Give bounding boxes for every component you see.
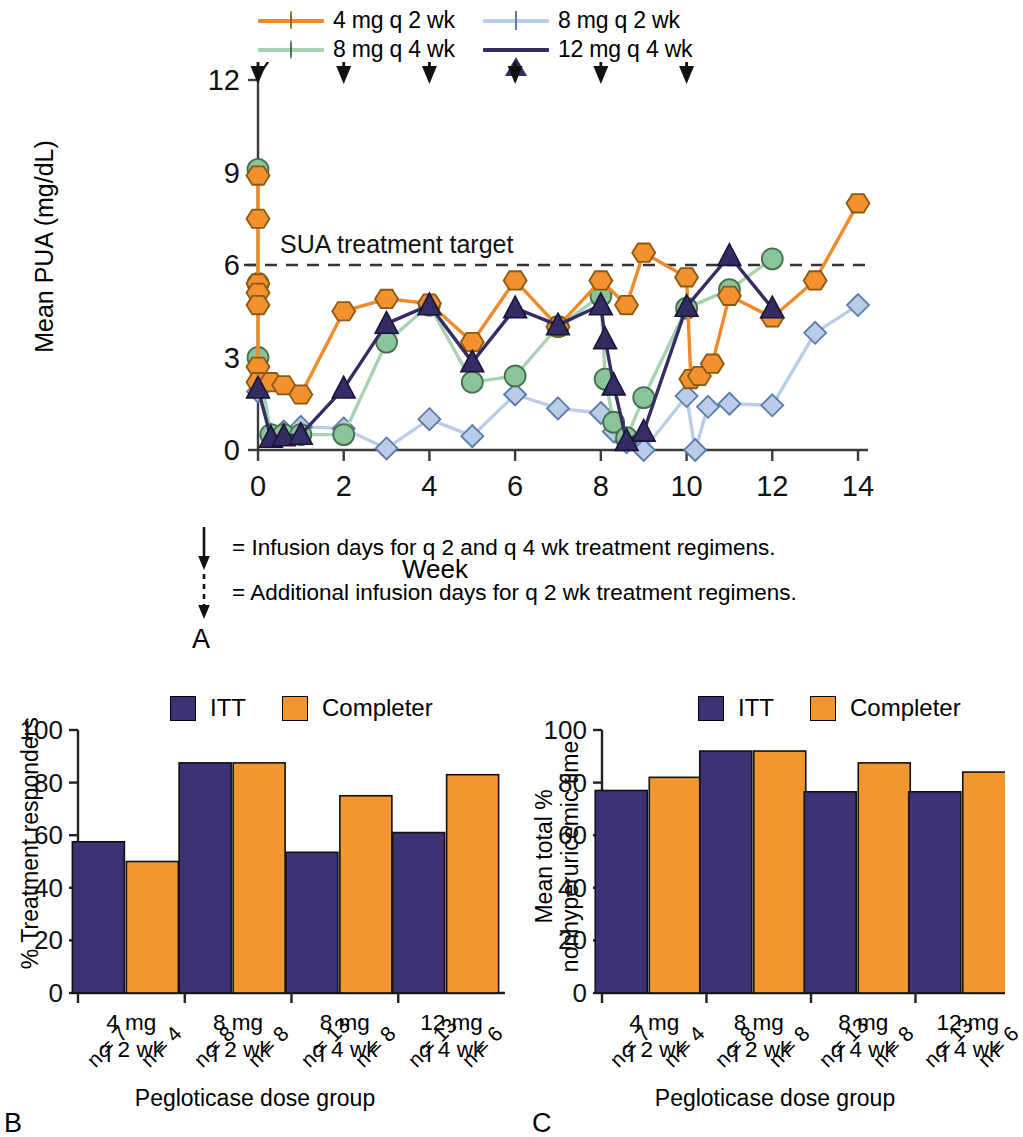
group-label-line2: q 2 wk [707,1037,812,1064]
bar-itt [393,833,445,993]
bar-y-tick: 40 [34,873,63,903]
sua-target-annotation: SUA treatment target [280,230,514,258]
group-label-line2: q 2 wk [602,1037,707,1064]
legend-swatch-completer [282,696,308,721]
solid-infusion-arrow-icon [422,62,437,84]
bar-group-label: 8 mgq 2 wk [185,1010,292,1063]
bar-y-tick: 80 [558,768,587,798]
bar-completer [963,772,1005,993]
group-label-line1: 4 mg [602,1010,707,1037]
group-label-line2: q 2 wk [78,1037,185,1064]
legend-line-12mg-q4wk [483,48,549,52]
legend-line-8mg-q4wk [258,48,324,52]
panel-a-line-chart: 4 mg q 2 wk 8 mg q 2 wk 8 mg q 4 wk [0,0,1005,665]
legend-swatch-itt [170,696,196,721]
panel-a-x-tick: 14 [842,470,874,502]
bar-y-tick: 100 [544,718,587,745]
bar-completer [447,775,499,993]
legend-label-8mg-q2wk: 8 mg q 2 wk [558,7,680,34]
solid-arrow-icon [196,525,226,571]
footnote-additional-infusion-days: = Additional infusion days for q 2 wk tr… [232,580,797,606]
legend-swatch-itt [698,696,724,721]
legend-item-12mg-q4wk: 12 mg q 4 wk [483,36,708,63]
bar-completer [858,763,910,993]
solid-infusion-arrow-icon [593,62,608,84]
panel-a-svg: 03691202468101214SUA treatment target [0,62,900,532]
bar-group-label: 12 mgq 4 wk [916,1010,1021,1063]
group-label-line2: q 4 wk [811,1037,916,1064]
group-label-line2: q 4 wk [292,1037,399,1064]
bar-group-label: 12 mgq 4 wk [398,1010,505,1063]
panel-b-svg: 020406080100 [0,718,505,1018]
bar-itt [286,852,338,993]
legend-item-4mg-q2wk: 4 mg q 2 wk [258,7,483,34]
bar-y-tick: 0 [49,978,63,1008]
bar-y-tick: 0 [573,978,587,1008]
bar-y-tick: 20 [558,925,587,955]
dashed-infusion-arrow-icon [336,62,351,84]
dashed-arrow-icon [196,572,226,622]
series-4-mg-q-2-wk [247,166,870,403]
bar-group-label: 8 mgq 4 wk [811,1010,916,1063]
panel-a-legend: 4 mg q 2 wk 8 mg q 2 wk 8 mg q 4 wk [258,6,708,64]
panel-a-plot-area: Mean PUA (mg/dL) 03691202468101214SUA tr… [0,62,1005,492]
panel-b-bar-chart: ITT Completer % Treatment responders 020… [0,680,505,1137]
panel-a-x-tick: 4 [421,470,437,502]
bar-group-label: 8 mgq 4 wk [292,1010,399,1063]
group-label-line1: 8 mg [292,1010,399,1037]
bar-completer [233,763,285,993]
bar-group-label: 4 mgq 2 wk [602,1010,707,1063]
bar-completer [126,862,178,994]
panel-a-y-tick: 3 [224,342,240,374]
bar-y-tick: 80 [34,768,63,798]
legend-line-4mg-q2wk [258,19,324,23]
panel-a-y-tick: 6 [224,249,240,281]
bar-completer [649,777,701,993]
panel-a-y-tick: 9 [224,157,240,189]
group-label-line1: 12 mg [916,1010,1021,1037]
bar-y-tick: 40 [558,873,587,903]
group-label-line2: q 2 wk [185,1037,292,1064]
legend-item-8mg-q2wk: 8 mg q 2 wk [483,7,708,34]
group-label-line2: q 4 wk [916,1037,1021,1064]
panel-a-x-tick: 10 [670,470,702,502]
panel-c-bar-chart: ITT Completer Mean total % nonhyperurice… [530,680,1005,1137]
group-label-line1: 4 mg [78,1010,185,1037]
panel-letter-c: C [532,1108,552,1137]
group-label-line1: 8 mg [707,1010,812,1037]
bar-y-tick: 20 [34,925,63,955]
panel-a-y-tick: 12 [208,64,240,96]
dashed-infusion-arrow-icon [679,62,694,84]
footnote-infusion-days: = Infusion days for q 2 and q 4 wk treat… [232,535,775,561]
legend-label-12mg-q4wk: 12 mg q 4 wk [558,36,692,63]
panel-a-x-tick: 0 [250,470,266,502]
group-label-line1: 8 mg [185,1010,292,1037]
bar-itt [179,763,231,993]
legend-swatch-completer [810,696,836,721]
panel-c-svg: 020406080100 [530,718,1005,1018]
panel-letter-a: A [192,624,210,655]
panel-letter-b: B [4,1108,22,1137]
dashed-infusion-arrow-icon [508,62,523,84]
panel-a-y-tick: 0 [224,434,240,466]
legend-line-8mg-q2wk [483,19,549,23]
bar-itt [700,751,752,993]
panel-a-x-tick: 6 [507,470,523,502]
bar-completer [754,751,806,993]
bar-y-tick: 100 [20,718,63,745]
legend-label-8mg-q4wk: 8 mg q 4 wk [333,36,455,63]
bar-group-label: 4 mgq 2 wk [78,1010,185,1063]
group-label-line2: q 4 wk [398,1037,505,1064]
bar-itt [595,790,647,993]
bar-itt [804,792,856,993]
group-label-line1: 12 mg [398,1010,505,1037]
panel-b-x-axis-label: Pegloticase dose group [30,1085,480,1112]
bar-y-tick: 60 [34,820,63,850]
bar-itt [909,792,961,993]
panel-a-x-tick: 12 [756,470,788,502]
bar-group-label: 8 mgq 2 wk [707,1010,812,1063]
legend-item-8mg-q4wk: 8 mg q 4 wk [258,36,483,63]
panel-c-x-axis-label: Pegloticase dose group [550,1085,1000,1112]
panel-a-x-tick: 2 [336,470,352,502]
